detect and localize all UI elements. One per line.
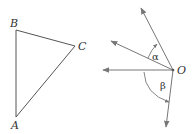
vertex-label-b: B (9, 17, 18, 30)
ray-down (166, 70, 173, 127)
ray-upper-left (111, 41, 173, 70)
origin-point (172, 69, 175, 72)
origin-label-o: O (177, 64, 186, 77)
vertex-label-c: C (78, 40, 87, 53)
angle-alpha-label: α (152, 51, 159, 62)
triangle-abc: B C A (9, 17, 87, 132)
vertex-label-a: A (10, 119, 19, 132)
angle-beta-label: β (160, 80, 166, 91)
rays-from-o: α β O (103, 8, 186, 127)
triangle-shape (16, 30, 75, 117)
geometry-figure: B C A α β O (0, 0, 193, 134)
